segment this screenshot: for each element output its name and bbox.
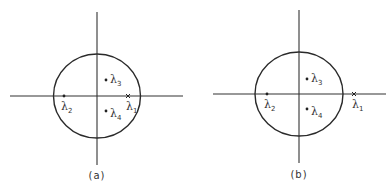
panel-b: λ1 λ2 λ3 λ4 (b): [213, 10, 386, 180]
lambda1-label-a: λ1: [126, 100, 137, 115]
lambda3-label-a: λ3: [110, 73, 121, 88]
lambda3-dot-b: [306, 78, 309, 81]
lambda3-dot-a: [105, 79, 108, 82]
lambda1-label-b: λ1: [352, 98, 363, 113]
panel-a: λ1 λ2 λ3 λ4 (a): [10, 12, 183, 181]
lambda4-label-a: λ4: [110, 107, 122, 122]
lambda2-dot-a: [63, 95, 66, 98]
caption-b: (b): [290, 169, 307, 180]
lambda4-dot-a: [105, 110, 108, 113]
lambda4-dot-b: [306, 108, 309, 111]
caption-a: (a): [89, 170, 106, 181]
eigenvalue-diagram: λ1 λ2 λ3 λ4 (a) λ1 λ2 λ3 λ4 (b): [0, 0, 390, 188]
lambda2-dot-b: [266, 93, 269, 96]
lambda3-label-b: λ3: [311, 72, 322, 87]
lambda2-label-a: λ2: [61, 100, 72, 115]
lambda2-label-b: λ2: [264, 98, 275, 113]
lambda4-label-b: λ4: [311, 105, 323, 120]
